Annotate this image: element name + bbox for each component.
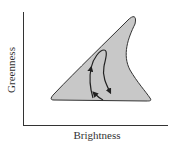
spectral-region	[51, 17, 151, 101]
tasseled-cap-diagram: Brightness Greenness	[0, 0, 169, 147]
x-axis-label: Brightness	[73, 129, 120, 141]
y-axis-label: Greenness	[5, 47, 17, 93]
